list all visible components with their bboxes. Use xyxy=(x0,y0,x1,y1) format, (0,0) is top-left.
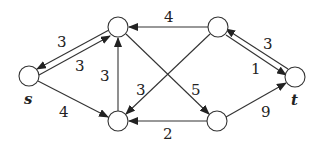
edge-d-to-t xyxy=(226,83,286,117)
edge-label-a-to-s: 3 xyxy=(57,33,67,51)
edge-label-c-to-a: 4 xyxy=(164,8,174,26)
edge-label-c-to-b: 3 xyxy=(136,81,146,99)
node-s-label: s xyxy=(24,90,33,108)
edge-label-a-to-d: 5 xyxy=(191,81,201,99)
edge-s-to-b xyxy=(38,81,108,117)
edge-label-s-to-b: 4 xyxy=(59,103,69,121)
edge-label-t-to-c: 3 xyxy=(263,35,273,53)
edge-label-c-to-t: 1 xyxy=(251,60,261,78)
flow-network-diagram: s t 3 3 4 3 4 3 5 2 3 1 9 xyxy=(0,0,328,143)
edge-label-b-to-a: 3 xyxy=(100,67,110,85)
edge-label-s-to-a: 3 xyxy=(75,57,85,75)
node-d xyxy=(207,111,227,131)
node-t-label: t xyxy=(291,91,298,109)
edge-label-d-to-b: 2 xyxy=(163,125,173,143)
node-b xyxy=(108,111,128,131)
node-c xyxy=(208,17,228,37)
node-a xyxy=(108,17,128,37)
node-t xyxy=(285,67,305,87)
edge-label-d-to-t: 9 xyxy=(261,103,271,121)
node-s xyxy=(19,66,39,86)
edge-a-to-s xyxy=(37,30,109,69)
